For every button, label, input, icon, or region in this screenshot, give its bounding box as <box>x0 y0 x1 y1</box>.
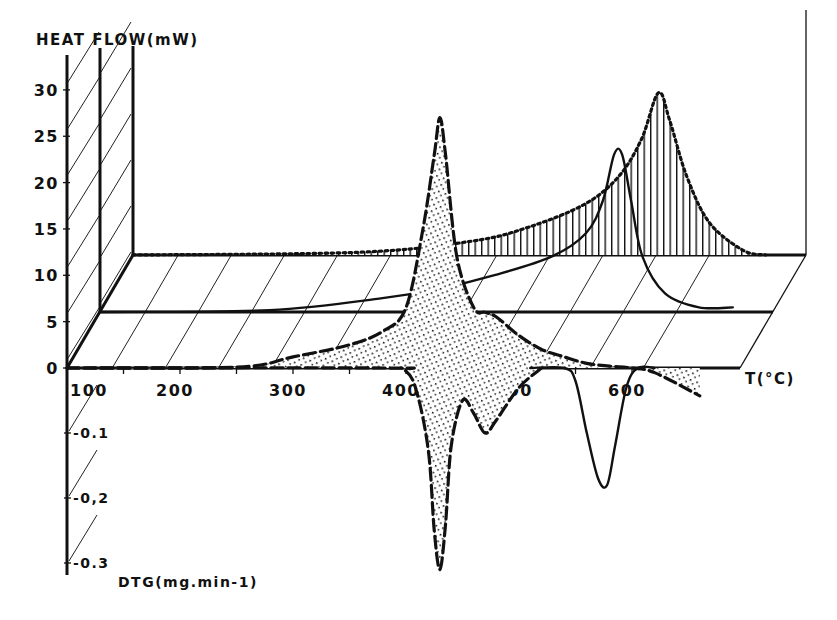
floor-hatch-line <box>251 255 284 312</box>
temperature-axis-label: T(°C) <box>745 370 795 388</box>
dtg-tick-label: -0.1 <box>73 425 110 441</box>
wall-hatch-line <box>101 206 131 256</box>
dtg-tick-label: -0.3 <box>73 555 110 571</box>
x-tick-label: 300 <box>269 381 307 400</box>
wall-hatch-line <box>68 124 99 174</box>
wall-hatch-line <box>101 160 131 210</box>
wall-hatch-line <box>68 170 99 220</box>
wall-hatch-line <box>68 78 99 128</box>
heat-flow-axis-label: HEAT FLOW(mW) <box>36 31 199 49</box>
floor-hatch-line <box>623 255 656 312</box>
wall-hatch-line <box>101 114 131 164</box>
data-curves <box>67 92 766 569</box>
wall-hatch-line <box>101 68 131 118</box>
wall-hatch-line <box>68 262 99 312</box>
dtg-tick-label: -0,2 <box>73 490 110 506</box>
floor-hatch-line <box>165 312 198 368</box>
floor-hatch-line <box>112 312 145 368</box>
floor-hatch-line <box>570 255 603 312</box>
x-tick-label: 200 <box>156 381 194 400</box>
floor-hatch-line <box>643 312 676 368</box>
dtg-axis-label: DTG(mg.min-1) <box>118 574 258 590</box>
wall-hatch-line <box>68 216 99 266</box>
y-tick-label: 5 <box>46 313 59 332</box>
y-tick-label: 25 <box>34 127 59 146</box>
x-tick-label: 100 <box>70 381 108 400</box>
heat-flow-tick-labels: 051015202530 <box>34 81 59 378</box>
wall-hatch-line <box>101 252 131 302</box>
floor-hatch-line <box>590 312 623 368</box>
curve-fill <box>67 118 700 396</box>
y-tick-label: 15 <box>34 220 59 239</box>
y-tick-label: 10 <box>34 266 59 285</box>
dtg-tick-labels: -0.1-0,2-0.3 <box>73 425 110 571</box>
thermal-analysis-chart: HEAT FLOW(mW) DTG(mg.min-1) T(°C) 051015… <box>0 0 837 620</box>
y-tick-label: 20 <box>34 174 59 193</box>
floor-hatch-line <box>218 312 251 368</box>
floor-hatch-line <box>145 255 178 312</box>
y-tick-label: 30 <box>34 81 59 100</box>
y-tick-label: 0 <box>46 359 59 378</box>
floor-hatch-line <box>358 255 391 312</box>
wall-hatch-line <box>68 308 99 358</box>
temperature-tick-labels: 100200300400500600 <box>70 381 646 400</box>
floor-hatch-line <box>198 255 231 312</box>
